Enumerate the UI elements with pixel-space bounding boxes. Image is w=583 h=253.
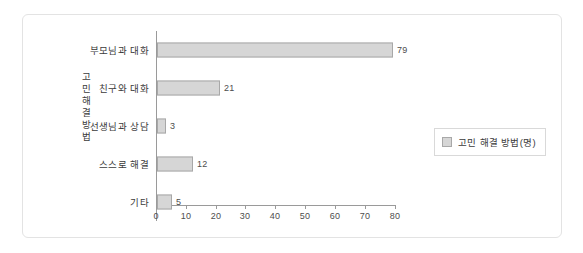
category-label: 친구와 대화 bbox=[99, 81, 149, 95]
bar[interactable] bbox=[157, 119, 166, 134]
bar-row: 친구와 대화 21 bbox=[156, 69, 395, 107]
plot-area: 부모님과 대화 79 친구와 대화 21 선생님과 상담 3 스스로 해결 12 bbox=[156, 31, 395, 219]
category-label: 기타 bbox=[130, 195, 149, 209]
bar-value-label: 5 bbox=[176, 197, 181, 207]
bar[interactable] bbox=[157, 157, 193, 172]
legend-label: 고민 해결 방법(명) bbox=[458, 135, 536, 149]
chart-card: 고 민 해 결 방 법 0 10 20 30 40 50 60 70 80 부 bbox=[22, 14, 562, 238]
category-label: 스스로 해결 bbox=[99, 157, 149, 171]
y-axis-title-char: 결 bbox=[79, 107, 93, 119]
category-label: 선생님과 상담 bbox=[90, 119, 149, 133]
bar-value-label: 3 bbox=[170, 121, 175, 131]
bar-row: 기타 5 bbox=[156, 183, 395, 221]
y-axis-title-char: 고 bbox=[79, 71, 93, 83]
bar-value-label: 21 bbox=[224, 83, 234, 93]
category-label: 부모님과 대화 bbox=[90, 43, 149, 57]
legend[interactable]: 고민 해결 방법(명) bbox=[434, 128, 546, 156]
bar-row: 스스로 해결 12 bbox=[156, 145, 395, 183]
chart-screenshot: 고 민 해 결 방 법 0 10 20 30 40 50 60 70 80 부 bbox=[0, 0, 583, 253]
bar[interactable] bbox=[157, 195, 172, 210]
bar-row: 선생님과 상담 3 bbox=[156, 107, 395, 145]
bar-value-label: 79 bbox=[397, 45, 407, 55]
bar[interactable] bbox=[157, 81, 220, 96]
bar-row: 부모님과 대화 79 bbox=[156, 31, 395, 69]
x-axis-tick bbox=[395, 205, 396, 209]
bar-value-label: 12 bbox=[197, 159, 207, 169]
y-axis-title-char: 민 bbox=[79, 83, 93, 95]
bar[interactable] bbox=[157, 43, 393, 58]
y-axis-title-char: 해 bbox=[79, 95, 93, 107]
legend-swatch-icon bbox=[442, 137, 452, 147]
